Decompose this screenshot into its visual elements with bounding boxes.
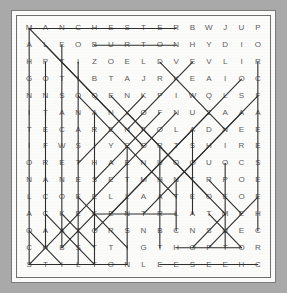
grid-cell[interactable]: E	[103, 87, 119, 104]
grid-cell[interactable]: O	[184, 239, 200, 256]
grid-cell[interactable]: E	[103, 172, 119, 189]
grid-cell[interactable]: A	[21, 37, 37, 54]
grid-cell[interactable]: J	[135, 71, 151, 88]
grid-cell[interactable]: N	[119, 121, 135, 138]
grid-cell[interactable]: S	[86, 172, 102, 189]
grid-cell[interactable]: E	[70, 189, 86, 206]
grid-cell[interactable]: T	[103, 71, 119, 88]
grid-cell[interactable]: T	[86, 256, 102, 273]
grid-cell[interactable]: R	[168, 20, 184, 37]
grid-cell[interactable]: T	[135, 206, 151, 223]
grid-cell[interactable]: T	[54, 54, 70, 71]
grid-cell[interactable]: I	[21, 138, 37, 155]
grid-cell[interactable]: Q	[201, 87, 217, 104]
grid-cell[interactable]: B	[86, 37, 102, 54]
grid-cell[interactable]: E	[37, 121, 53, 138]
grid-cell[interactable]: H	[168, 239, 184, 256]
grid-cell[interactable]: O	[250, 37, 266, 54]
grid-cell[interactable]: U	[103, 37, 119, 54]
grid-cell[interactable]: U	[184, 104, 200, 121]
grid-cell[interactable]: E	[233, 206, 249, 223]
grid-cell[interactable]: Z	[201, 104, 217, 121]
grid-cell[interactable]: P	[201, 239, 217, 256]
letter-grid[interactable]: MANCHESTERBWJUPALEOBURTONHYDIOHPTIZOELDV…	[21, 20, 266, 273]
grid-cell[interactable]: T	[70, 155, 86, 172]
grid-cell[interactable]: S	[184, 256, 200, 273]
grid-cell[interactable]: P	[37, 54, 53, 71]
grid-cell[interactable]: D	[152, 54, 168, 71]
grid-cell[interactable]: S	[119, 20, 135, 37]
grid-cell[interactable]: T	[168, 189, 184, 206]
grid-cell[interactable]: E	[152, 256, 168, 273]
grid-cell[interactable]: T	[54, 71, 70, 88]
grid-cell[interactable]: E	[54, 155, 70, 172]
grid-cell[interactable]: G	[21, 71, 37, 88]
grid-cell[interactable]: O	[201, 189, 217, 206]
grid-cell[interactable]: E	[103, 206, 119, 223]
grid-cell[interactable]: R	[250, 54, 266, 71]
grid-cell[interactable]: E	[119, 138, 135, 155]
grid-cell[interactable]: L	[119, 189, 135, 206]
grid-cell[interactable]: H	[21, 54, 37, 71]
grid-cell[interactable]: K	[135, 87, 151, 104]
grid-cell[interactable]: C	[168, 222, 184, 239]
grid-cell[interactable]: E	[168, 256, 184, 273]
grid-cell[interactable]: C	[70, 20, 86, 37]
grid-cell[interactable]: B	[86, 71, 102, 88]
grid-cell[interactable]: H	[37, 239, 53, 256]
grid-cell[interactable]: E	[250, 172, 266, 189]
grid-cell[interactable]: N	[21, 172, 37, 189]
grid-cell[interactable]: L	[217, 54, 233, 71]
grid-cell[interactable]: N	[21, 87, 37, 104]
grid-cell[interactable]: A	[135, 189, 151, 206]
grid-cell[interactable]: T	[37, 256, 53, 273]
grid-cell[interactable]: R	[37, 155, 53, 172]
grid-cell[interactable]: A	[54, 104, 70, 121]
grid-cell[interactable]: V	[201, 54, 217, 71]
grid-cell[interactable]: E	[233, 121, 249, 138]
grid-cell[interactable]: O	[103, 256, 119, 273]
grid-cell[interactable]: N	[119, 206, 135, 223]
grid-cell[interactable]: N	[119, 87, 135, 104]
grid-cell[interactable]: U	[201, 155, 217, 172]
grid-cell[interactable]: S	[233, 87, 249, 104]
grid-cell[interactable]: N	[135, 222, 151, 239]
grid-cell[interactable]: S	[21, 256, 37, 273]
grid-cell[interactable]: C	[233, 155, 249, 172]
grid-cell[interactable]: H	[201, 138, 217, 155]
grid-cell[interactable]: S	[184, 138, 200, 155]
grid-cell[interactable]: L	[37, 37, 53, 54]
grid-cell[interactable]: W	[54, 138, 70, 155]
grid-cell[interactable]: Y	[119, 104, 135, 121]
grid-cell[interactable]: E	[250, 121, 266, 138]
grid-cell[interactable]: S	[201, 222, 217, 239]
grid-cell[interactable]: U	[233, 20, 249, 37]
grid-cell[interactable]: A	[152, 189, 168, 206]
grid-cell[interactable]: T	[86, 239, 102, 256]
grid-cell[interactable]: E	[250, 189, 266, 206]
grid-cell[interactable]: E	[54, 37, 70, 54]
grid-cell[interactable]: T	[119, 172, 135, 189]
grid-cell[interactable]: A	[37, 172, 53, 189]
grid-cell[interactable]: P	[152, 87, 168, 104]
grid-cell[interactable]: Z	[70, 222, 86, 239]
grid-cell[interactable]: R	[250, 239, 266, 256]
grid-cell[interactable]: C	[54, 121, 70, 138]
grid-cell[interactable]: O	[37, 71, 53, 88]
grid-cell[interactable]: M	[135, 172, 151, 189]
grid-cell[interactable]: A	[119, 71, 135, 88]
grid-cell[interactable]: Y	[103, 138, 119, 155]
grid-cell[interactable]: N	[54, 172, 70, 189]
grid-cell[interactable]: R	[152, 71, 168, 88]
grid-cell[interactable]: A	[217, 104, 233, 121]
grid-cell[interactable]: R	[152, 138, 168, 155]
grid-cell[interactable]: E	[233, 222, 249, 239]
grid-cell[interactable]: Z	[86, 54, 102, 71]
grid-cell[interactable]: I	[217, 138, 233, 155]
grid-cell[interactable]: A	[37, 20, 53, 37]
grid-cell[interactable]: D	[217, 37, 233, 54]
grid-cell[interactable]: O	[70, 37, 86, 54]
grid-cell[interactable]: A	[37, 222, 53, 239]
grid-cell[interactable]: N	[119, 256, 135, 273]
grid-cell[interactable]: T	[135, 37, 151, 54]
